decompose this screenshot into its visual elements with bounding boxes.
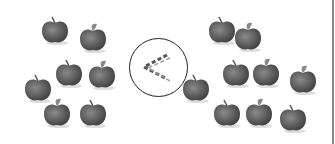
apple-icon (54, 57, 84, 89)
less-than-icon (130, 39, 186, 95)
right-border (332, 0, 334, 144)
apple-icon (251, 57, 281, 89)
apple-icon (40, 14, 70, 46)
apple-icon (244, 97, 274, 129)
apple-icon (288, 64, 318, 96)
apple-icon (278, 102, 308, 134)
apple-icon (87, 59, 117, 91)
apple-icon (212, 97, 242, 129)
apple-icon (42, 97, 72, 129)
apple-icon (78, 22, 108, 54)
apple-icon (181, 72, 211, 104)
comparison-circle: < (129, 38, 188, 97)
apple-icon (233, 21, 263, 53)
apple-icon (221, 57, 251, 89)
apple-icon (78, 97, 108, 129)
